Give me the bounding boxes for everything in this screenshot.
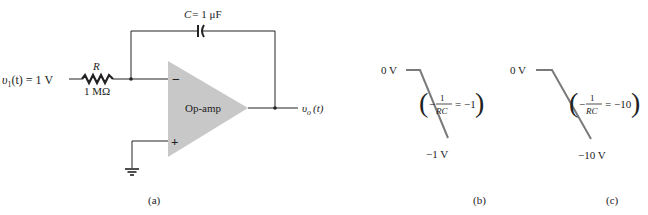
capacitor-label: C= 1 μF	[184, 8, 222, 20]
resistor-icon	[82, 75, 113, 83]
slope-formula: ( − 1 RC = −10 )	[569, 87, 640, 118]
figure-canvas: υ1(t) = 1 V R 1 MΩ C= 1 μF − + Op-amp υo…	[0, 0, 648, 215]
panel-b-waveform: 0 V ( − 1 RC = −1 ) −1 V (b)	[381, 64, 486, 207]
svg-text:−: −	[579, 98, 585, 110]
output-voltage-label: υo(t)	[302, 102, 324, 117]
output-junction-dot	[273, 106, 277, 110]
panel-a-circuit: υ1(t) = 1 V R 1 MΩ C= 1 μF − + Op-amp υo…	[2, 8, 324, 207]
svg-text:= −1: = −1	[455, 98, 476, 110]
svg-text:RC: RC	[435, 106, 448, 116]
svg-text:1: 1	[590, 93, 595, 103]
svg-text:= −10: = −10	[605, 98, 632, 110]
resistor-value: 1 MΩ	[84, 85, 110, 97]
svg-text:RC: RC	[585, 106, 598, 116]
ground-icon	[125, 169, 139, 175]
opamp-label: Op-amp	[185, 102, 222, 114]
inverting-sign: −	[172, 72, 180, 87]
panel-c-waveform: 0 V ( − 1 RC = −10 ) −10 V (c)	[510, 64, 640, 207]
input-voltage-label: υ1(t) = 1 V	[2, 73, 54, 89]
panel-c-caption: (c)	[606, 194, 619, 207]
panel-b-caption: (b)	[473, 194, 486, 207]
end-voltage-label: −1 V	[426, 148, 448, 160]
feedback-wire-left	[131, 31, 197, 79]
right-paren: )	[475, 87, 484, 118]
right-paren: )	[631, 87, 640, 118]
start-voltage-label: 0 V	[510, 64, 526, 76]
ground-wire	[132, 141, 168, 168]
resistor-symbol: R	[92, 60, 100, 72]
noninverting-sign: +	[171, 134, 178, 149]
start-voltage-label: 0 V	[381, 64, 397, 76]
end-voltage-label: −10 V	[578, 149, 606, 161]
svg-text:1: 1	[440, 93, 445, 103]
svg-text:−: −	[429, 98, 435, 110]
panel-a-caption: (a)	[148, 194, 161, 207]
left-paren: (	[419, 87, 428, 118]
left-paren: (	[569, 87, 578, 118]
